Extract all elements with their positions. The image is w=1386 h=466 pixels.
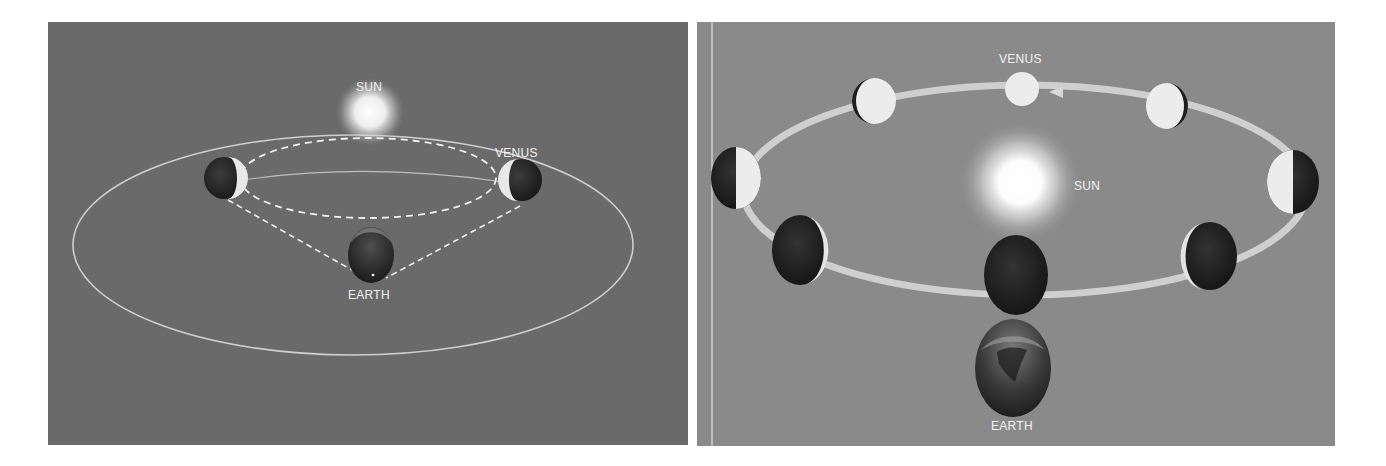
venus-phases-panel: VENUS SUN EARTH bbox=[697, 22, 1335, 446]
earth-label: EARTH bbox=[348, 288, 390, 302]
venus-left-crescent bbox=[204, 157, 248, 199]
earth bbox=[975, 319, 1051, 417]
venus-half-right bbox=[1267, 150, 1319, 214]
earth bbox=[348, 227, 394, 283]
sun-label: SUN bbox=[1074, 179, 1100, 193]
sightline-left bbox=[228, 200, 366, 278]
sun-label: SUN bbox=[356, 80, 382, 94]
venus-new bbox=[984, 235, 1048, 315]
venus-label: VENUS bbox=[495, 146, 538, 160]
venus-crescent-left bbox=[772, 215, 828, 285]
venus-orbit-geometry-panel: SUN VENUS EARTH bbox=[48, 22, 688, 445]
venus-half-left bbox=[711, 147, 761, 209]
venus-label: VENUS bbox=[999, 52, 1042, 66]
earth-label: EARTH bbox=[991, 419, 1033, 433]
venus-orbit bbox=[240, 138, 496, 218]
venus-right-crescent bbox=[498, 159, 542, 201]
venus-full bbox=[1005, 72, 1039, 106]
venus-crescent-right bbox=[1181, 222, 1237, 290]
venus-phases-diagram bbox=[697, 22, 1335, 446]
venus-gibbous-left bbox=[852, 78, 896, 124]
venus-gibbous-right bbox=[1146, 83, 1188, 129]
sun bbox=[958, 120, 1082, 244]
earth-orbit-back-segment bbox=[243, 171, 503, 182]
sightline-right bbox=[386, 206, 520, 278]
